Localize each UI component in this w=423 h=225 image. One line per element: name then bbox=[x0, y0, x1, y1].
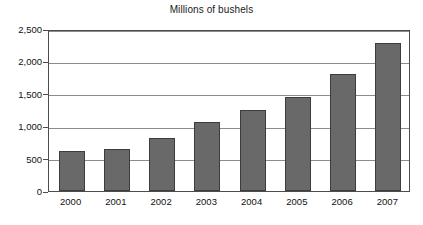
bar bbox=[194, 122, 220, 191]
x-tick-label: 2003 bbox=[184, 196, 229, 207]
y-tick-label: 0 bbox=[0, 187, 42, 197]
plot-area bbox=[48, 30, 410, 192]
bar bbox=[330, 74, 356, 191]
x-tick-label: 2004 bbox=[229, 196, 274, 207]
x-tick-label: 2000 bbox=[48, 196, 93, 207]
chart-title: Millions of bushels bbox=[0, 4, 423, 16]
y-tick-label: 1,000 bbox=[0, 122, 42, 132]
bar bbox=[149, 138, 175, 191]
gridline bbox=[49, 63, 409, 64]
x-axis: 20002001200220032004200520062007 bbox=[48, 196, 410, 212]
x-tick-label: 2001 bbox=[93, 196, 138, 207]
y-tick-label: 1,500 bbox=[0, 90, 42, 100]
bar bbox=[285, 97, 311, 191]
y-axis: 05001,0001,5002,0002,500 bbox=[0, 30, 42, 192]
bar bbox=[240, 110, 266, 191]
x-tick-label: 2005 bbox=[274, 196, 319, 207]
bar bbox=[59, 151, 85, 191]
bar-chart: Millions of bushels 05001,0001,5002,0002… bbox=[0, 0, 423, 225]
y-tick-label: 2,000 bbox=[0, 57, 42, 67]
x-tick-label: 2007 bbox=[365, 196, 410, 207]
bar bbox=[375, 43, 401, 191]
x-tick-label: 2002 bbox=[139, 196, 184, 207]
gridline bbox=[49, 31, 409, 32]
x-tick-label: 2006 bbox=[320, 196, 365, 207]
y-tick-label: 2,500 bbox=[0, 25, 42, 35]
bar bbox=[104, 149, 130, 191]
y-tick-label: 500 bbox=[0, 155, 42, 165]
